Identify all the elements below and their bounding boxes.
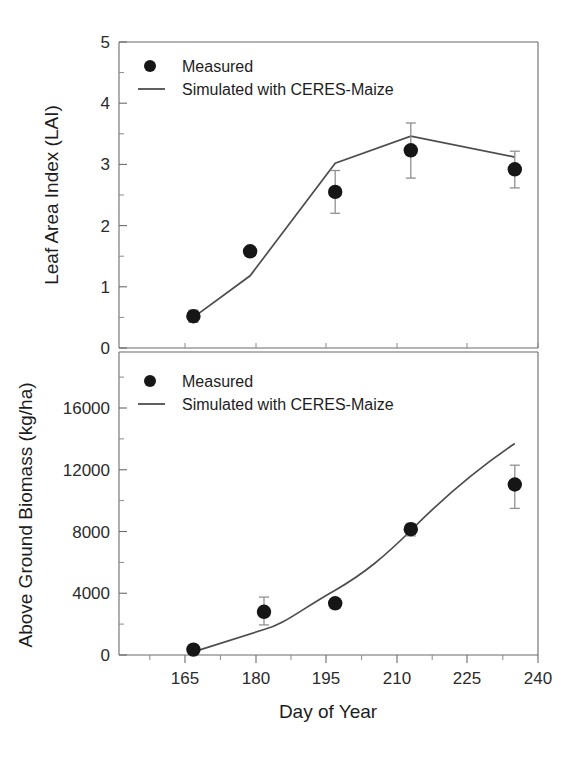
legend-measured-marker-icon (144, 375, 156, 387)
bottom-yaxis-title: Above Ground Biomass (kg/ha) (15, 382, 36, 647)
bottom-ytick-label-12000: 12000 (63, 461, 110, 480)
data-point (328, 185, 342, 199)
xtick-label-195: 195 (312, 669, 340, 688)
top-ytick-label-0: 0 (101, 339, 110, 358)
legend-simulated-label: Simulated with CERES-Maize (182, 396, 394, 413)
top-yaxis-title: Leaf Area Index (LAI) (41, 105, 62, 285)
bottom-ytick-label-4000: 4000 (72, 584, 110, 603)
bottom-panel: 0 4000 8000 12000 16000 Above Ground Bio… (15, 352, 552, 722)
top-ytick-label-4: 4 (101, 94, 110, 113)
data-point (404, 143, 418, 157)
top-ytick-label-5: 5 (101, 33, 110, 52)
xtick-label-240: 240 (524, 669, 552, 688)
legend-measured-label: Measured (182, 58, 253, 75)
bottom-ytick-label-0: 0 (101, 646, 110, 665)
top-ytick-label-1: 1 (101, 278, 110, 297)
data-point (186, 309, 200, 323)
data-point (328, 596, 342, 610)
xtick-label-225: 225 (453, 669, 481, 688)
chart-svg: 0 1 2 3 4 5 Leaf Area Index (LAI) (0, 0, 579, 760)
legend-measured-marker-icon (144, 60, 156, 72)
xtick-label-180: 180 (242, 669, 270, 688)
bottom-ytick-label-16000: 16000 (63, 399, 110, 418)
legend-measured-label: Measured (182, 373, 253, 390)
xaxis-title: Day of Year (279, 701, 378, 722)
legend-simulated-label: Simulated with CERES-Maize (182, 81, 394, 98)
data-point (508, 477, 522, 491)
xtick-label-210: 210 (383, 669, 411, 688)
data-point (243, 244, 257, 258)
top-panel: 0 1 2 3 4 5 Leaf Area Index (LAI) (41, 33, 538, 358)
data-point (508, 162, 522, 176)
top-ytick-label-3: 3 (101, 155, 110, 174)
top-ytick-label-2: 2 (101, 217, 110, 236)
figure-container: 0 1 2 3 4 5 Leaf Area Index (LAI) (0, 0, 579, 760)
bottom-ytick-label-8000: 8000 (72, 523, 110, 542)
data-point (186, 642, 200, 656)
xtick-label-165: 165 (171, 669, 199, 688)
data-point (257, 605, 271, 619)
data-point (404, 522, 418, 536)
